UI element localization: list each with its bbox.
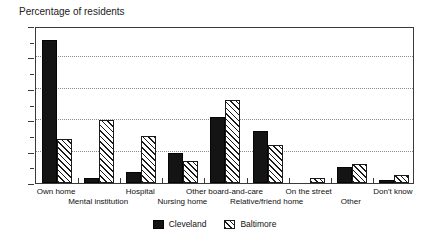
bar-chart: Percentage of residents 01020304050 Own … [0, 0, 429, 244]
y-tick-45 [30, 43, 34, 44]
bar-cleveland [210, 117, 225, 183]
bar-cleveland [126, 172, 141, 183]
bar-group [331, 26, 373, 183]
legend-label-baltimore: Baltimore [240, 220, 276, 229]
bar-baltimore [352, 164, 367, 183]
x-axis-label-mental-institution: Mental institution [68, 197, 128, 206]
bar-cleveland [379, 180, 394, 183]
bar-group [36, 26, 78, 183]
plot-inner [36, 28, 413, 183]
y-tick-25 [30, 106, 34, 107]
legend-item-cleveland: Cleveland [153, 220, 207, 229]
bar-cleveland [337, 167, 352, 183]
bar-group [289, 26, 331, 183]
y-tick-10 [28, 153, 34, 154]
x-axis-label-other: Other [341, 197, 361, 206]
bar-group [204, 26, 246, 183]
bar-baltimore [141, 136, 156, 183]
legend-swatch-cleveland [153, 220, 164, 229]
bar-baltimore [99, 120, 114, 183]
x-axis-label-nursing-home: Nursing home [157, 197, 207, 206]
legend-label-cleveland: Cleveland [169, 220, 207, 229]
bar-baltimore [225, 100, 240, 183]
x-axis-label-don-t-know: Don't know [373, 187, 412, 196]
y-tick-40 [28, 58, 34, 59]
bar-group [120, 26, 162, 183]
bar-group [162, 26, 204, 183]
x-axis-label-own-home: Own home [37, 187, 76, 196]
legend-item-baltimore: Baltimore [224, 220, 276, 229]
y-tick-0 [28, 184, 34, 185]
chart-legend: ClevelandBaltimore [0, 220, 429, 229]
bar-baltimore [57, 139, 72, 183]
y-tick-50 [28, 27, 34, 28]
bar-baltimore [394, 175, 409, 183]
bar-baltimore [268, 145, 283, 183]
bar-cleveland [84, 178, 99, 183]
bar-cleveland [42, 40, 57, 183]
legend-swatch-baltimore [224, 220, 235, 229]
bar-group [78, 26, 120, 183]
y-tick-5 [30, 168, 34, 169]
x-axis-label-relative-friend-home: Relative/friend home [230, 197, 303, 206]
x-axis-label-on-the-street: On the street [286, 187, 332, 196]
y-tick-35 [30, 74, 34, 75]
chart-title: Percentage of residents [19, 6, 125, 18]
bar-baltimore [310, 178, 325, 183]
y-tick-30 [28, 90, 34, 91]
y-tick-15 [30, 137, 34, 138]
bar-cleveland [168, 153, 183, 183]
x-axis-label-other-board-and-care: Other board-and-care [186, 187, 263, 196]
bar-group [247, 26, 289, 183]
bar-cleveland [253, 131, 268, 183]
bar-group [373, 26, 415, 183]
y-tick-20 [28, 121, 34, 122]
x-axis-label-hospital: Hospital [126, 187, 155, 196]
plot-area [35, 27, 414, 184]
bar-baltimore [183, 161, 198, 183]
